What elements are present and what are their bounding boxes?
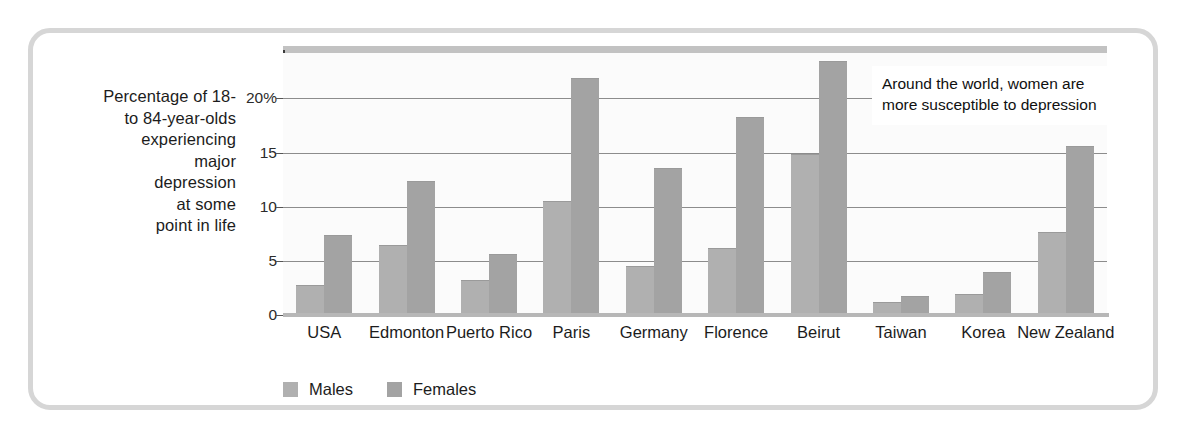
y-tick-label: 10 xyxy=(225,198,277,216)
x-tick-label: New Zealand xyxy=(1013,322,1119,342)
y-tick-mark xyxy=(276,98,283,99)
bar-group xyxy=(448,53,530,315)
bar-group xyxy=(365,53,447,315)
bar-females xyxy=(983,272,1011,315)
bar-group xyxy=(283,53,365,315)
bar-females xyxy=(324,235,352,315)
legend-label: Males xyxy=(309,380,353,399)
y-axis-label-line: experiencing xyxy=(36,129,236,151)
y-axis-label: Percentage of 18-to 84-year-oldsexperien… xyxy=(36,86,236,237)
bar-females xyxy=(1066,146,1094,315)
y-tick-label: 5 xyxy=(225,252,277,270)
y-tick-mark xyxy=(276,315,283,316)
bar-females xyxy=(819,61,847,315)
bar-females xyxy=(571,78,599,315)
legend-item-females[interactable]: Females xyxy=(387,380,476,399)
bar-males xyxy=(1038,232,1066,315)
bar-males xyxy=(791,154,819,315)
bar-females xyxy=(407,181,435,315)
bar-group xyxy=(777,53,859,315)
legend-item-males[interactable]: Males xyxy=(283,380,353,399)
legend-swatch-icon xyxy=(283,382,298,397)
annotation-callout: Around the world, women are more suscept… xyxy=(872,66,1116,125)
bar-males xyxy=(543,201,571,315)
chart-legend: MalesFemales xyxy=(283,380,476,399)
y-tick-mark xyxy=(276,207,283,208)
bar-males xyxy=(379,245,407,315)
y-axis-ticks: 05101520% xyxy=(215,53,277,315)
y-tick-mark xyxy=(276,153,283,154)
x-axis-labels: USAEdmontonPuerto RicoParisGermanyFloren… xyxy=(283,322,1107,372)
bar-group xyxy=(530,53,612,315)
plot-top-cap xyxy=(283,46,1107,53)
bar-males xyxy=(296,285,324,315)
y-axis-label-line: depression xyxy=(36,172,236,194)
y-axis-label-line: to 84-year-olds xyxy=(36,108,236,130)
bar-females xyxy=(654,168,682,315)
bar-males xyxy=(955,294,983,315)
y-axis-label-line: point in life xyxy=(36,215,236,237)
bar-males xyxy=(708,248,736,315)
y-tick-label: 20% xyxy=(225,89,277,107)
y-tick-mark xyxy=(276,261,283,262)
bar-group xyxy=(613,53,695,315)
legend-swatch-icon xyxy=(387,382,402,397)
chart-figure: Percentage of 18-to 84-year-oldsexperien… xyxy=(0,0,1189,441)
y-tick-label: 0 xyxy=(225,306,277,324)
y-axis-label-line: major xyxy=(36,151,236,173)
bar-males xyxy=(626,266,654,315)
bar-females xyxy=(736,117,764,315)
y-axis-label-line: at some xyxy=(36,194,236,216)
y-tick-label: 15 xyxy=(225,144,277,162)
bar-males xyxy=(461,280,489,315)
legend-label: Females xyxy=(413,380,476,399)
bar-group xyxy=(695,53,777,315)
x-axis-line xyxy=(283,313,1109,317)
bar-females xyxy=(489,254,517,315)
y-axis-label-line: Percentage of 18- xyxy=(36,86,236,108)
